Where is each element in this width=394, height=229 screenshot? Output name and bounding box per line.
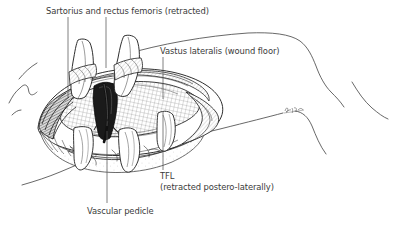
label-tfl-line1: TFL — [160, 171, 274, 182]
illustration-page: Sartorius and rectus femoris (retracted)… — [0, 0, 394, 229]
label-vascular-pedicle: Vascular pedicle — [87, 206, 154, 217]
label-tfl-line2: (retracted postero-laterally) — [160, 182, 274, 193]
label-tfl: TFL (retracted postero-laterally) — [160, 171, 274, 192]
surgical-illustration — [0, 0, 394, 229]
label-vastus-lateralis: Vastus lateralis (wound floor) — [160, 46, 279, 57]
label-sartorius-and-rectus-femoris: Sartorius and rectus femoris (retracted) — [46, 6, 209, 17]
